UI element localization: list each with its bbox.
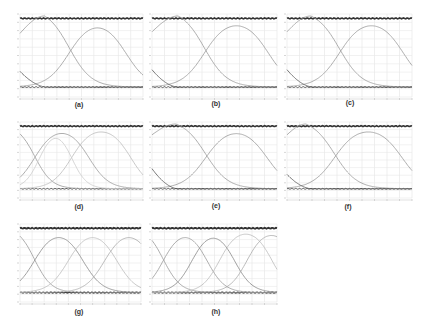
chart-panel-h xyxy=(152,224,277,302)
panel-label: (a) xyxy=(59,101,99,108)
chart-plot xyxy=(152,14,277,103)
chart-panel-b xyxy=(152,14,277,97)
chart-plot xyxy=(20,122,143,204)
series-line xyxy=(20,18,143,19)
chart-panel-c xyxy=(287,14,412,97)
panel-label: (c) xyxy=(330,99,370,106)
panel-label: (d) xyxy=(59,203,99,210)
panel-label: (b) xyxy=(196,100,236,107)
panel-label: (h) xyxy=(196,308,236,315)
chart-panel-d xyxy=(20,122,143,198)
series-line xyxy=(287,126,412,127)
panel-label: (e) xyxy=(196,202,236,209)
series-line xyxy=(20,228,141,229)
series-line xyxy=(287,18,412,19)
chart-plot xyxy=(20,224,141,308)
chart-plot xyxy=(287,14,412,103)
panel-label: (g) xyxy=(59,308,99,315)
chart-panel-f xyxy=(287,122,412,198)
panel-label: (f) xyxy=(328,203,368,210)
chart-plot xyxy=(287,122,412,204)
chart-plot xyxy=(152,224,277,308)
series-line xyxy=(152,228,277,229)
series-line xyxy=(20,126,143,127)
chart-plot xyxy=(152,122,277,204)
chart-panel-g xyxy=(20,224,141,302)
chart-plot xyxy=(20,14,143,103)
chart-panel-e xyxy=(152,122,277,198)
series-line xyxy=(152,126,277,127)
chart-panel-a xyxy=(20,14,143,97)
